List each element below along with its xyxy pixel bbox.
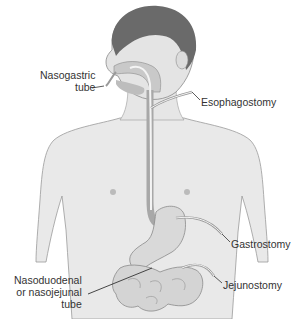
- leader-esophagostomy: [192, 92, 200, 100]
- label-line: Nasogastric: [40, 69, 95, 81]
- label-esophagostomy: Esophagostomy: [201, 96, 276, 108]
- label-line: or nasojejunal: [14, 286, 82, 298]
- torso-illustration: [0, 0, 299, 319]
- label-jejunostomy: Jejunostomy: [223, 279, 282, 291]
- label-gastrostomy: Gastrostomy: [231, 238, 291, 250]
- label-line: tube: [40, 81, 95, 93]
- label-nasogastric-tube: Nasogastric tube: [40, 69, 95, 93]
- ear: [176, 51, 188, 69]
- label-line: tube: [14, 298, 82, 310]
- label-line: Nasoduodenal: [14, 274, 82, 286]
- label-nasoduodenal-tube: Nasoduodenal or nasojejunal tube: [14, 274, 82, 310]
- nipple-right: [184, 189, 190, 195]
- nipple-left: [110, 189, 116, 195]
- nasogastric-external-tube: [106, 72, 116, 86]
- intestines: [113, 265, 203, 311]
- feeding-tube-diagram: Nasogastric tube Esophagostomy Gastrosto…: [0, 0, 299, 319]
